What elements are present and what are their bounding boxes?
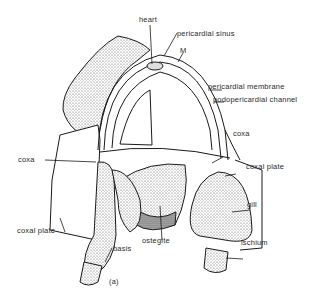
coxal-plate-left: [50, 125, 100, 240]
label-coxa-left: coxa: [18, 156, 35, 164]
label-m: M: [180, 47, 186, 55]
label-gill: gill: [247, 201, 257, 209]
crustacean-thorax-diagram: [0, 0, 333, 302]
label-pericardial-sinus: pericardial sinus: [177, 30, 235, 38]
gill: [190, 172, 252, 241]
heart: [147, 62, 163, 70]
label-coxa-right: coxa: [233, 130, 250, 138]
figure-caption: (a): [109, 278, 119, 286]
label-basis: basis: [113, 245, 132, 253]
label-ischium: ischium: [241, 239, 268, 247]
floor: [100, 148, 230, 158]
label-podopericardial-channel: podopericardial channel: [213, 96, 297, 104]
label-ostegite: ostegite: [142, 237, 170, 245]
label-pericardial-membrane: pericardial membrane: [208, 83, 285, 91]
label-heart: heart: [139, 16, 157, 24]
label-coxal-plate-left: coxal plate: [17, 227, 55, 235]
label-coxal-plate-right: coxal plate: [246, 163, 284, 171]
